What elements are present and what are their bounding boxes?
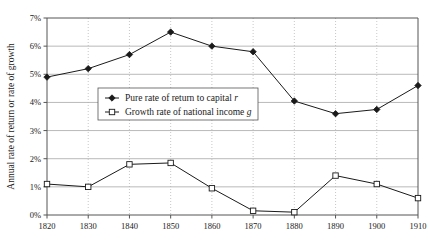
data-point-marker-g xyxy=(250,208,255,213)
x-tick-label: 1900 xyxy=(368,221,385,231)
data-point-marker-g xyxy=(127,162,132,167)
data-point-marker-g xyxy=(292,209,297,214)
data-point-marker-g xyxy=(44,181,49,186)
data-point-marker-r xyxy=(209,43,215,49)
x-tick-label: 1850 xyxy=(162,221,179,231)
legend-label-symbol: g xyxy=(247,107,252,117)
x-tick-label: 1910 xyxy=(410,221,427,231)
chart-legend: Pure rate of return to capital rGrowth r… xyxy=(98,88,258,120)
x-axis-tick-labels: 1820183018401850186018701880189019001910 xyxy=(39,221,427,231)
data-point-marker-r xyxy=(415,82,421,88)
y-axis-label: Annual rate of return or rate of growth xyxy=(6,43,16,190)
legend-label-symbol: r xyxy=(234,93,238,103)
data-point-marker-r xyxy=(44,74,50,80)
y-tick-label: 5% xyxy=(30,69,41,79)
legend-label-text: Growth rate of national income xyxy=(125,107,247,117)
series-growth-rate-national-income xyxy=(44,160,420,215)
line-chart: 0%1%2%3%4%5%6%7% 18201830184018501860187… xyxy=(0,0,430,244)
data-point-marker-r xyxy=(126,51,132,57)
data-point-marker-r xyxy=(332,110,338,116)
x-tick-label: 1890 xyxy=(327,221,344,231)
data-point-marker-r xyxy=(374,106,380,112)
x-tick-label: 1830 xyxy=(80,221,97,231)
chart-container: 0%1%2%3%4%5%6%7% 18201830184018501860187… xyxy=(0,0,430,244)
x-tick-label: 1840 xyxy=(121,221,138,231)
x-axis-ticks xyxy=(47,215,418,219)
y-tick-label: 3% xyxy=(30,126,41,136)
data-point-marker-g xyxy=(415,195,420,200)
y-tick-label: 6% xyxy=(30,41,41,51)
y-tick-label: 0% xyxy=(30,210,41,220)
x-tick-label: 1860 xyxy=(203,221,220,231)
y-axis-tick-labels: 0%1%2%3%4%5%6%7% xyxy=(30,13,41,220)
legend-marker-g xyxy=(109,109,114,114)
legend-label-text: Pure rate of return to capital xyxy=(125,93,234,103)
data-point-marker-g xyxy=(333,173,338,178)
x-tick-label: 1870 xyxy=(245,221,262,231)
legend-label: Pure rate of return to capital r xyxy=(125,93,238,103)
y-tick-label: 7% xyxy=(30,13,41,23)
legend-label: Growth rate of national income g xyxy=(125,107,252,117)
data-point-marker-r xyxy=(167,29,173,35)
y-tick-label: 2% xyxy=(30,154,41,164)
y-tick-label: 4% xyxy=(30,97,41,107)
data-point-marker-r xyxy=(85,65,91,71)
x-tick-label: 1880 xyxy=(286,221,303,231)
y-tick-label: 1% xyxy=(30,182,41,192)
y-axis-title: Annual rate of return or rate of growth xyxy=(6,43,16,190)
data-point-marker-g xyxy=(374,181,379,186)
data-point-marker-g xyxy=(86,184,91,189)
x-tick-label: 1820 xyxy=(39,221,56,231)
data-point-marker-g xyxy=(209,186,214,191)
series-polyline xyxy=(47,163,418,212)
data-point-marker-g xyxy=(168,160,173,165)
